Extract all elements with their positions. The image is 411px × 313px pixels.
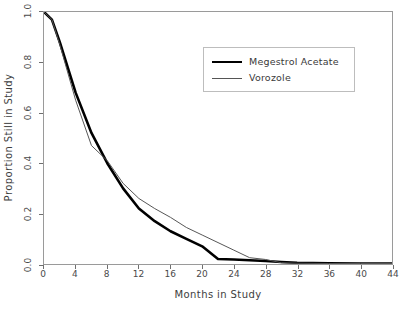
y-tick-label: 0.0	[20, 260, 36, 270]
legend-label: Vorozole	[249, 72, 291, 84]
y-tick-label: 0.6	[20, 108, 36, 118]
x-tick-label: 28	[260, 269, 271, 279]
x-tick-label: 24	[228, 269, 239, 279]
legend-line-thick-icon	[212, 61, 242, 64]
x-axis-title: Months in Study	[43, 289, 393, 300]
x-tick-label: 36	[324, 269, 335, 279]
legend: Megestrol Acetate Vorozole	[203, 47, 355, 92]
x-tick-label: 44	[387, 269, 398, 279]
y-tick-mark	[39, 11, 43, 12]
y-axis-title-container: Proportion Still in Study	[0, 11, 16, 265]
legend-label: Megestrol Acetate	[249, 56, 339, 68]
y-tick-mark	[39, 265, 43, 266]
x-tick-label: 32	[292, 269, 303, 279]
x-tick-label: 40	[355, 269, 366, 279]
y-tick-label: 1.0	[20, 6, 36, 16]
y-tick-mark	[39, 62, 43, 63]
x-tick-label: 8	[104, 269, 110, 279]
legend-line-thin-icon	[212, 78, 242, 79]
y-tick-label: 0.4	[20, 158, 36, 168]
y-tick-mark	[39, 113, 43, 114]
y-axis-title: Proportion Still in Study	[3, 11, 14, 265]
x-tick-label: 16	[165, 269, 176, 279]
y-tick-mark	[39, 214, 43, 215]
legend-item-megestrol-acetate: Megestrol Acetate	[212, 54, 346, 70]
y-tick-label: 0.2	[20, 209, 36, 219]
x-tick-label: 20	[196, 269, 207, 279]
survival-chart-figure: Proportion Still in Study Megestrol Acet…	[0, 0, 411, 313]
x-tick-label: 12	[133, 269, 144, 279]
y-tick-label: 0.8	[20, 57, 36, 67]
legend-item-vorozole: Vorozole	[212, 70, 346, 86]
x-tick-label: 0	[40, 269, 46, 279]
x-tick-label: 4	[72, 269, 78, 279]
y-tick-mark	[39, 163, 43, 164]
